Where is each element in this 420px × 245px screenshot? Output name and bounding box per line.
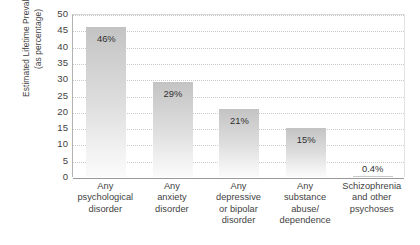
bar-value-label: 21%	[230, 116, 249, 126]
x-axis-label-line: psychological	[72, 192, 139, 203]
x-axis-label-line: Any	[272, 181, 339, 192]
bar-value-label: 29%	[164, 89, 183, 99]
y-axis-tick-label: 30	[44, 74, 68, 84]
bar-value-label: 15%	[297, 135, 316, 145]
x-axis-label-line: substance	[272, 192, 339, 203]
y-axis-tick-label: 5	[44, 156, 68, 166]
x-axis-line	[73, 178, 404, 179]
bar-chart: Estimated Lifetime Prevalence (as percen…	[0, 0, 420, 245]
y-axis-tick-label: 10	[44, 139, 68, 149]
y-axis-tick-label: 0	[44, 172, 68, 182]
x-axis-label-line: Any	[139, 181, 206, 192]
bar-slot: 21%	[206, 15, 273, 177]
x-axis-label-line: disorder	[72, 204, 139, 215]
x-axis-label-line: abuse/	[272, 204, 339, 215]
x-axis-label-line: Schizophrenia	[338, 181, 405, 192]
x-axis-label-line: and other	[338, 192, 405, 203]
bar-value-label: 0.4%	[362, 164, 383, 174]
y-axis-tick-label: 40	[44, 42, 68, 52]
y-axis-tick-label: 15	[44, 123, 68, 133]
x-axis-category-label: Schizophreniaand otherpsychoses	[338, 181, 405, 215]
y-axis-tick-label: 25	[44, 91, 68, 101]
x-axis-label-line: Any	[205, 181, 272, 192]
bar-series: 46%29%21%15%0.4%	[73, 15, 404, 177]
x-axis-label-line: psychoses	[338, 204, 405, 215]
x-axis-label-line: dependence	[272, 215, 339, 226]
x-axis-label-line: disorder	[139, 204, 206, 215]
x-axis-label-line: anxiety	[139, 192, 206, 203]
x-axis-category-label: Anysubstanceabuse/dependence	[272, 181, 339, 227]
bar[interactable]	[353, 176, 393, 178]
x-axis-label-line: Any	[72, 181, 139, 192]
y-axis-title-line-2: (as percentage)	[33, 9, 45, 69]
y-axis-tick-label: 45	[44, 25, 68, 35]
x-axis-category-label: Anydepressiveor bipolardisorder	[205, 181, 272, 227]
y-axis-title-line-1: Estimated Lifetime Prevalence	[21, 0, 33, 97]
bar[interactable]: 46%	[86, 27, 126, 177]
x-axis-label-line: or bipolar	[205, 204, 272, 215]
x-axis-category-label: Anypsychologicaldisorder	[72, 181, 139, 215]
y-axis-tick-label: 35	[44, 58, 68, 68]
x-axis-category-label: Anyanxietydisorder	[139, 181, 206, 215]
bar-slot: 29%	[140, 15, 207, 177]
y-axis-tick-labels: 50454035302520151050	[44, 14, 68, 177]
bar-slot: 15%	[273, 15, 340, 177]
y-axis-tick-label: 50	[44, 9, 68, 19]
bar[interactable]: 21%	[219, 109, 259, 177]
plot-area: 46%29%21%15%0.4%	[72, 14, 405, 177]
bar[interactable]: 29%	[153, 82, 193, 177]
y-axis-tick-label: 20	[44, 107, 68, 117]
bar-slot: 0.4%	[339, 15, 406, 177]
bar[interactable]: 15%	[286, 128, 326, 177]
bar-slot: 46%	[73, 15, 140, 177]
x-axis-label-line: disorder	[205, 215, 272, 226]
bar-value-label: 46%	[97, 34, 116, 44]
x-axis-category-labels: AnypsychologicaldisorderAnyanxietydisord…	[72, 181, 405, 241]
x-axis-label-line: depressive	[205, 192, 272, 203]
